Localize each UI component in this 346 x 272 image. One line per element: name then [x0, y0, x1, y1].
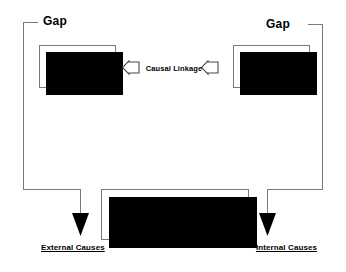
node-label-environmental: 5. Environmental Factors Impacting Perfo… [118, 202, 232, 228]
chevron-left-icon-outer [121, 60, 141, 82]
gap-label-right: Gap [266, 17, 290, 31]
node-label-is-4: 4. Is [68, 61, 88, 72]
internal-causes-label: Internal Causes [256, 243, 317, 252]
external-causes-label: External Causes [41, 243, 105, 252]
gap-label-left: Gap [43, 14, 67, 28]
node-box-is-4[interactable]: 4. Is [39, 45, 116, 88]
node-box-environmental-factors[interactable]: 5. Environmental Factors Impacting Perfo… [101, 189, 249, 240]
arrow-down-left-icon [72, 213, 89, 236]
arrow-down-right-icon [259, 213, 276, 236]
environmental-line-1: 5. Environmental Factors [118, 202, 232, 215]
environmental-line-2: Impacting Performance [118, 215, 232, 228]
diagram-canvas: Gap Gap 4. Is 3. Is Causal Linkage 5. En… [0, 0, 346, 272]
node-box-is-3[interactable]: 3. Is [233, 45, 310, 88]
node-label-is-3: 3. Is [262, 61, 282, 72]
causal-linkage-label: Causal Linkage [143, 64, 205, 73]
